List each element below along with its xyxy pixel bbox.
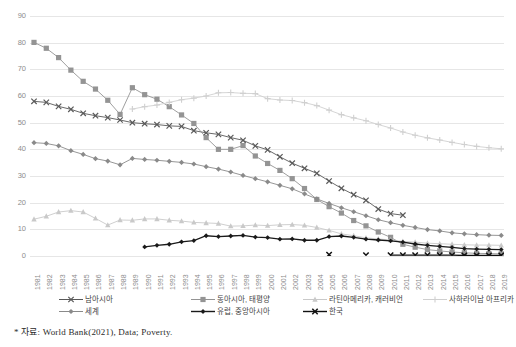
legend-marker-icon (190, 306, 216, 317)
legend-label: 세계 (84, 306, 99, 317)
legend-item[interactable]: 한국 (302, 306, 343, 317)
legend-label: 사하라이남 아프리카 (448, 294, 514, 305)
chart-screenshot: 0102030405060708090 19811982198319841985… (0, 0, 516, 347)
legend-marker-icon (58, 294, 84, 305)
legend-marker-icon (190, 294, 216, 305)
legend-marker-icon (422, 294, 448, 305)
y-tick-label: 0 (4, 252, 26, 260)
y-tick-label: 90 (4, 12, 26, 20)
legend-item[interactable]: 라틴아메리카, 캐러비언 (302, 294, 403, 305)
legend-row-2: 세계유럽, 중앙아시아한국 (30, 306, 506, 317)
y-tick-label: 50 (4, 119, 26, 127)
legend-row-1: 남아시아동아시아, 태평양라틴아메리카, 캐러비언사하라이남 아프리카 (30, 294, 506, 305)
series-유럽, 중앙아시아 (142, 233, 503, 252)
y-tick-label: 60 (4, 92, 26, 100)
grid-line (30, 256, 504, 257)
legend-marker-icon (302, 306, 328, 317)
legend-label: 동아시아, 태평양 (216, 294, 270, 305)
x-axis-ticks: 1981198219831984198519861987198819891990… (30, 258, 504, 292)
legend-label: 유럽, 중앙아시아 (216, 306, 270, 317)
plot-area: 0102030405060708090 (30, 16, 504, 256)
y-tick-label: 10 (4, 225, 26, 233)
legend-marker-icon (302, 294, 328, 305)
legend-label: 라틴아메리카, 캐러비언 (328, 294, 403, 305)
y-tick-label: 20 (4, 199, 26, 207)
legend-item[interactable]: 동아시아, 태평양 (190, 294, 270, 305)
legend-item[interactable]: 남아시아 (58, 294, 113, 305)
legend-item[interactable]: 유럽, 중앙아시아 (190, 306, 270, 317)
legend-item[interactable]: 사하라이남 아프리카 (422, 294, 514, 305)
x-tick-label: 2019 (497, 258, 516, 292)
y-tick-label: 70 (4, 65, 26, 73)
y-tick-label: 80 (4, 39, 26, 47)
y-tick-label: 30 (4, 172, 26, 180)
chart-legend: 남아시아동아시아, 태평양라틴아메리카, 캐러비언사하라이남 아프리카 세계유럽… (30, 294, 506, 318)
legend-item[interactable]: 세계 (58, 306, 99, 317)
y-tick-label: 40 (4, 145, 26, 153)
series-layer (30, 16, 504, 256)
legend-label: 한국 (328, 306, 343, 317)
legend-marker-icon (58, 306, 84, 317)
series-사하라이남 아프리카 (129, 90, 504, 152)
source-footnote: * 자료: World Bank(2021), Data; Poverty. (14, 325, 173, 338)
series-라틴아메리카, 캐러비언 (31, 208, 504, 248)
legend-label: 남아시아 (84, 294, 113, 305)
